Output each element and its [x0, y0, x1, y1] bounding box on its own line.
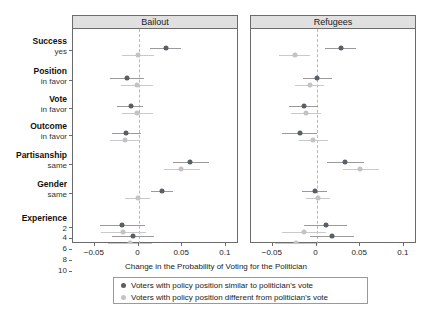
y-level-label: 2	[1, 224, 67, 233]
x-axis-tick	[316, 243, 317, 246]
estimate-point	[135, 195, 140, 200]
y-group-label: Partisanship	[1, 151, 67, 161]
x-axis-tick	[359, 243, 360, 246]
y-label-gender-same: Gendersame	[1, 180, 67, 199]
y-group-label: Vote	[1, 95, 67, 105]
y-axis-tick	[69, 249, 72, 250]
y-group-label: Gender	[1, 180, 67, 190]
x-axis-tick-label: 0.1	[397, 248, 408, 257]
estimate-point	[301, 229, 306, 234]
panel-bailout-title: Bailout	[73, 16, 237, 29]
zero-reference-line	[139, 29, 140, 244]
estimate-point	[179, 166, 184, 171]
y-label-partisanship-same: Partisanshipsame	[1, 151, 67, 170]
y-label-level-6: 6	[1, 244, 67, 253]
y-level-label: yes	[1, 47, 67, 56]
y-level-label: same	[1, 161, 67, 170]
legend-label-similar: Voters with policy position similar to p…	[131, 280, 313, 291]
y-group-label: Outcome	[1, 122, 67, 132]
y-level-label: 6	[1, 244, 67, 253]
y-label-position-in-favor: Positionin favor	[1, 67, 67, 86]
x-axis-tick-label: 0.05	[351, 248, 367, 257]
estimate-point	[312, 188, 317, 193]
y-level-label: 4	[1, 233, 67, 242]
chart-root: SuccessyesPositionin favorVotein favorOu…	[0, 0, 432, 324]
estimate-point	[304, 110, 309, 115]
x-axis-tick-label: 0.05	[173, 248, 189, 257]
y-label-level-4: 4	[1, 233, 67, 242]
x-axis-tick-label: 0	[135, 248, 139, 257]
estimate-point	[343, 159, 348, 164]
estimate-point	[124, 130, 129, 135]
y-axis-tick	[69, 260, 72, 261]
x-axis-tick	[403, 243, 404, 246]
x-axis-tick	[272, 243, 273, 246]
estimate-point	[338, 45, 343, 50]
estimate-point	[135, 110, 140, 115]
x-axis-tick	[225, 243, 226, 246]
legend-item-different: Voters with policy position different fr…	[114, 292, 369, 303]
y-group-label: Success	[1, 37, 67, 47]
estimate-point	[292, 52, 297, 57]
estimate-point	[307, 82, 312, 87]
y-level-label: in favor	[1, 105, 67, 114]
legend-marker-similar	[121, 283, 126, 288]
estimate-point	[128, 240, 133, 244]
y-label-outcome-in-favor: Outcomein favor	[1, 122, 67, 141]
x-axis-tick-label: −0.05	[262, 248, 282, 257]
x-axis-tick-label: −0.05	[84, 248, 104, 257]
y-level-label: in favor	[1, 132, 67, 141]
estimate-point	[302, 103, 307, 108]
estimate-point	[134, 82, 139, 87]
legend-label-different: Voters with policy position different fr…	[131, 292, 328, 303]
y-level-label: same	[1, 190, 67, 199]
x-axis-tick	[181, 243, 182, 246]
legend-item-similar: Voters with policy position similar to p…	[114, 280, 369, 291]
estimate-point	[316, 195, 321, 200]
estimate-point	[315, 75, 320, 80]
x-axis-tick-label: 0	[313, 248, 317, 257]
estimate-point	[294, 240, 299, 244]
panel-refugees-header: Refugees	[251, 16, 415, 29]
estimate-point	[188, 159, 193, 164]
legend-marker-different	[121, 295, 126, 300]
estimate-point	[358, 166, 363, 171]
panel-bailout-plot-area	[73, 29, 237, 244]
x-axis-tick-label: 0.1	[219, 248, 230, 257]
y-axis-tick	[69, 271, 72, 272]
zero-reference-line	[317, 29, 318, 244]
y-group-label: Position	[1, 67, 67, 77]
estimate-point	[324, 222, 329, 227]
estimate-point	[120, 229, 125, 234]
estimate-point	[136, 52, 141, 57]
estimate-point	[131, 233, 136, 238]
estimate-point	[122, 137, 127, 142]
estimate-point	[129, 103, 134, 108]
estimate-point	[329, 233, 334, 238]
panel-bailout: Bailout	[72, 15, 238, 243]
estimate-point	[311, 137, 316, 142]
panel-refugees-title: Refugees	[251, 16, 415, 29]
y-label-experience-2: Experience2	[1, 214, 67, 233]
estimate-point	[160, 188, 165, 193]
panel-refugees-plot-area	[251, 29, 415, 244]
panel-bailout-header: Bailout	[73, 16, 237, 29]
estimate-point	[163, 45, 168, 50]
panel-refugees: Refugees	[250, 15, 416, 243]
chart-legend: Voters with policy position similar to p…	[113, 277, 368, 304]
estimate-point	[125, 75, 130, 80]
y-label-vote-in-favor: Votein favor	[1, 95, 67, 114]
x-axis-tick	[138, 243, 139, 246]
estimate-point	[297, 130, 302, 135]
y-label-success-yes: Successyes	[1, 37, 67, 56]
estimate-point	[119, 222, 124, 227]
y-level-label: in favor	[1, 77, 67, 86]
x-axis-title: Change in the Probability of Voting for …	[0, 262, 432, 271]
y-group-label: Experience	[1, 214, 67, 224]
x-axis-tick	[94, 243, 95, 246]
